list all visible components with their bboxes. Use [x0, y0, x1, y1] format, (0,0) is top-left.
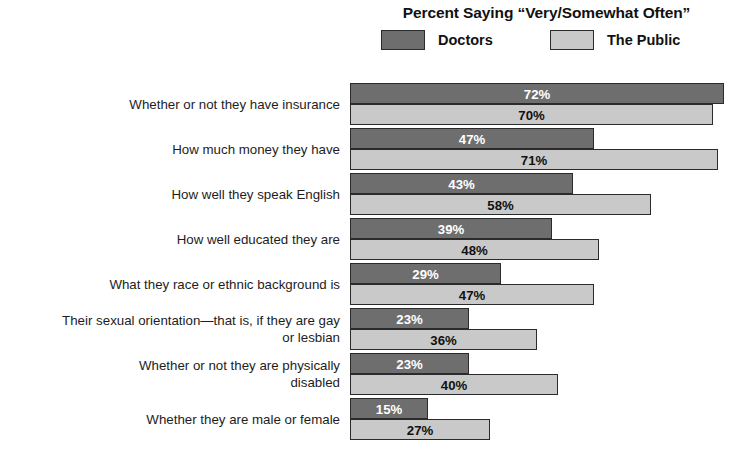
- bar-the-public: 71%: [350, 149, 718, 170]
- bar-group: How much money they have47%71%: [0, 128, 743, 170]
- legend-label-doctors: Doctors: [438, 32, 493, 48]
- bar-value-label: 48%: [351, 242, 598, 257]
- category-label: How much money they have: [0, 141, 340, 158]
- bar-the-public: 40%: [350, 374, 558, 395]
- bar-value-label: 72%: [351, 86, 723, 101]
- bar-group: Whether or not they are physically disab…: [0, 353, 743, 395]
- chart-title: Percent Saying “Very/Somewhat Often”: [350, 4, 743, 22]
- bar-doctors: 23%: [350, 353, 469, 374]
- bar-value-label: 47%: [351, 287, 593, 302]
- bar-value-label: 71%: [351, 152, 717, 167]
- bar-chart: Percent Saying “Very/Somewhat Often” Doc…: [0, 0, 743, 461]
- category-label: Their sexual orientation—that is, if the…: [0, 312, 340, 346]
- bar-the-public: 47%: [350, 284, 594, 305]
- bar-value-label: 23%: [351, 311, 468, 326]
- category-label: Whether or not they are physically disab…: [0, 357, 340, 391]
- legend-swatch-doctors: [381, 30, 425, 50]
- bar-the-public: 58%: [350, 194, 651, 215]
- bar-doctors: 47%: [350, 128, 594, 149]
- bar-value-label: 29%: [351, 266, 500, 281]
- bar-the-public: 27%: [350, 419, 490, 440]
- bar-doctors: 23%: [350, 308, 469, 329]
- bar-the-public: 36%: [350, 329, 537, 350]
- category-label: Whether or not they have insurance: [0, 96, 340, 113]
- bar-value-label: 43%: [351, 176, 572, 191]
- bar-doctors: 43%: [350, 173, 573, 194]
- bar-value-label: 47%: [351, 131, 593, 146]
- bar-value-label: 15%: [351, 401, 427, 416]
- bar-doctors: 39%: [350, 218, 552, 239]
- legend-item-the-public: The Public: [550, 29, 680, 51]
- chart-legend: Doctors The Public: [350, 29, 743, 53]
- bar-value-label: 70%: [351, 107, 712, 122]
- bar-value-label: 27%: [351, 422, 489, 437]
- bar-doctors: 72%: [350, 83, 724, 104]
- bar-value-label: 40%: [351, 377, 557, 392]
- legend-item-doctors: Doctors: [381, 29, 493, 51]
- bar-group: How well they speak English43%58%: [0, 173, 743, 215]
- legend-swatch-the-public: [550, 30, 594, 50]
- plot-area: Whether or not they have insurance72%70%…: [0, 82, 743, 461]
- bar-value-label: 58%: [351, 197, 650, 212]
- category-label: How well they speak English: [0, 186, 340, 203]
- bar-value-label: 23%: [351, 356, 468, 371]
- bar-the-public: 70%: [350, 104, 713, 125]
- bar-doctors: 15%: [350, 398, 428, 419]
- bar-value-label: 39%: [351, 221, 551, 236]
- bar-doctors: 29%: [350, 263, 501, 284]
- bar-group: Whether they are male or female15%27%: [0, 398, 743, 440]
- bar-group: Whether or not they have insurance72%70%: [0, 83, 743, 125]
- bar-group: What they race or ethnic background is29…: [0, 263, 743, 305]
- category-label: Whether they are male or female: [0, 411, 340, 428]
- bar-group: How well educated they are39%48%: [0, 218, 743, 260]
- bar-group: Their sexual orientation—that is, if the…: [0, 308, 743, 350]
- legend-label-the-public: The Public: [607, 32, 680, 48]
- category-label: What they race or ethnic background is: [0, 276, 340, 293]
- category-label: How well educated they are: [0, 231, 340, 248]
- bar-value-label: 36%: [351, 332, 536, 347]
- bar-the-public: 48%: [350, 239, 599, 260]
